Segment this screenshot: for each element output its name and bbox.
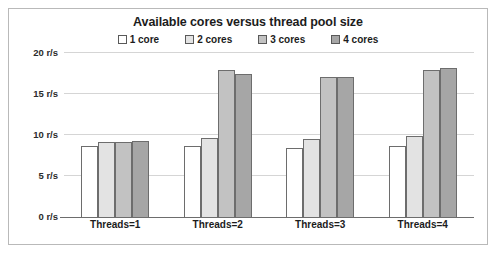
bar — [303, 139, 320, 217]
x-axis-tick-label: Threads=1 — [64, 219, 167, 230]
bar-group — [372, 53, 475, 217]
y-axis-tick-label: 5 r/s — [38, 170, 58, 181]
bar-group — [269, 53, 372, 217]
bar — [115, 142, 132, 217]
bar — [423, 70, 440, 217]
bar-group — [64, 53, 167, 217]
bar — [440, 68, 457, 217]
y-axis-tick-label: 10 r/s — [33, 129, 58, 140]
bar — [389, 146, 406, 217]
bar — [406, 136, 423, 217]
legend-label: 2 cores — [197, 34, 232, 45]
x-axis-tick-label: Threads=4 — [372, 219, 475, 230]
legend-swatch-icon — [185, 35, 194, 44]
bar-group — [167, 53, 270, 217]
y-axis-tick-label: 15 r/s — [33, 88, 58, 99]
x-axis-line — [60, 217, 474, 219]
chart-container: Available cores versus thread pool size … — [8, 8, 488, 245]
bar — [286, 148, 303, 217]
legend-item-4-cores: 4 cores — [331, 34, 378, 45]
bar-groups — [64, 53, 474, 217]
bar — [235, 74, 252, 217]
chart-legend: 1 core2 cores3 cores4 cores — [9, 34, 487, 45]
x-axis-labels: Threads=1Threads=2Threads=3Threads=4 — [64, 219, 474, 230]
chart-title: Available cores versus thread pool size — [9, 15, 487, 29]
legend-label: 1 core — [130, 34, 159, 45]
plot-area: 0 r/s5 r/s10 r/s15 r/s20 r/s — [64, 53, 474, 217]
bar — [132, 141, 149, 217]
legend-swatch-icon — [331, 35, 340, 44]
legend-swatch-icon — [118, 35, 127, 44]
y-axis-tick-label: 20 r/s — [33, 47, 58, 58]
legend-item-1-core: 1 core — [118, 34, 159, 45]
x-axis-tick-label: Threads=2 — [167, 219, 270, 230]
legend-label: 4 cores — [343, 34, 378, 45]
bar — [81, 146, 98, 217]
legend-item-3-cores: 3 cores — [258, 34, 305, 45]
bar — [337, 77, 354, 217]
x-axis-tick-label: Threads=3 — [269, 219, 372, 230]
y-axis-tick-label: 0 r/s — [38, 211, 58, 222]
bar — [201, 138, 218, 217]
legend-swatch-icon — [258, 35, 267, 44]
bar — [218, 70, 235, 217]
legend-label: 3 cores — [270, 34, 305, 45]
bar — [320, 77, 337, 217]
bar — [184, 146, 201, 217]
legend-item-2-cores: 2 cores — [185, 34, 232, 45]
bar — [98, 142, 115, 217]
